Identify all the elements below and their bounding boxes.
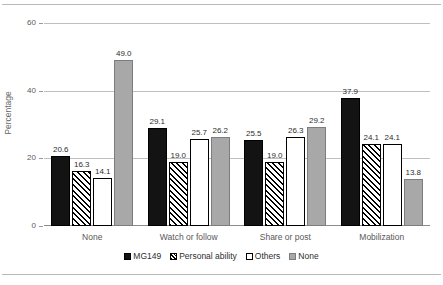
bar-value-label: 29.1 <box>149 118 165 126</box>
x-axis-category-label: None <box>44 232 141 242</box>
legend-item[interactable]: Others <box>246 251 281 261</box>
bar-item[interactable]: 24.1 <box>383 23 402 226</box>
bar-value-label: 49.0 <box>116 50 132 58</box>
bar-item[interactable]: 29.2 <box>307 23 326 226</box>
bar-group-bars: 20.616.314.149.0 <box>44 23 141 226</box>
bar-group: 37.924.124.113.8 <box>334 23 431 226</box>
legend-item-label: None <box>298 251 318 261</box>
y-axis-title: Percentage <box>3 91 13 134</box>
legend-item-label: Personal ability <box>179 251 237 261</box>
bar-group-bars: 25.519.026.329.2 <box>237 23 334 226</box>
legend-item[interactable]: None <box>289 251 318 261</box>
bar[interactable] <box>404 179 423 226</box>
bar-item[interactable]: 19.0 <box>169 23 188 226</box>
bar-item[interactable]: 26.3 <box>286 23 305 226</box>
bar[interactable] <box>286 137 305 226</box>
legend-swatch-icon <box>246 253 253 260</box>
bar-item[interactable]: 19.0 <box>265 23 284 226</box>
bar[interactable] <box>169 162 188 226</box>
bar-item[interactable]: 14.1 <box>93 23 112 226</box>
y-axis-tick-label: 0 <box>32 222 36 230</box>
plot-area: 6040200 20.616.314.149.029.119.025.726.2… <box>44 23 430 226</box>
bar[interactable] <box>307 127 326 226</box>
bar-value-label: 26.2 <box>212 127 228 135</box>
bar-value-label: 24.1 <box>384 134 400 142</box>
bar-item[interactable]: 37.9 <box>341 23 360 226</box>
y-axis-tick <box>39 158 43 159</box>
bar-value-label: 16.3 <box>74 161 90 169</box>
legend-swatch-icon <box>124 253 131 260</box>
y-axis-tick <box>39 91 43 92</box>
bar-group: 20.616.314.149.0 <box>44 23 141 226</box>
bar-value-label: 29.2 <box>309 117 325 125</box>
chart-legend: MG149Personal abilityOthersNone <box>0 251 443 261</box>
bar-value-label: 25.5 <box>246 130 262 138</box>
bar-group-bars: 37.924.124.113.8 <box>334 23 431 226</box>
bar[interactable] <box>341 98 360 226</box>
bar-group: 29.119.025.726.2 <box>141 23 238 226</box>
bar-value-label: 19.0 <box>170 152 186 160</box>
figure-bottom-rule <box>2 274 441 275</box>
bar-groups: 20.616.314.149.029.119.025.726.225.519.0… <box>44 23 430 226</box>
bar[interactable] <box>114 60 133 226</box>
bar-item[interactable]: 29.1 <box>148 23 167 226</box>
x-axis-category-label: Mobilization <box>334 232 431 242</box>
bar[interactable] <box>265 162 284 226</box>
bar-value-label: 25.7 <box>191 129 207 137</box>
bar-item[interactable]: 24.1 <box>362 23 381 226</box>
bar-group: 25.519.026.329.2 <box>237 23 334 226</box>
y-axis-tick-label: 20 <box>27 154 36 162</box>
bar-item[interactable]: 13.8 <box>404 23 423 226</box>
bar-value-label: 37.9 <box>342 88 358 96</box>
x-axis-category-label: Share or post <box>237 232 334 242</box>
bar-item[interactable]: 16.3 <box>72 23 91 226</box>
bar[interactable] <box>51 156 70 226</box>
bar-item[interactable]: 49.0 <box>114 23 133 226</box>
bar-value-label: 13.8 <box>405 169 421 177</box>
bar[interactable] <box>190 139 209 226</box>
bar-value-label: 24.1 <box>363 134 379 142</box>
bar-item[interactable]: 26.2 <box>211 23 230 226</box>
x-axis-category-label: Watch or follow <box>141 232 238 242</box>
bar-value-label: 14.1 <box>95 168 111 176</box>
legend-item-label: Others <box>255 251 281 261</box>
chart-figure: Percentage 6040200 20.616.314.149.029.11… <box>0 0 443 285</box>
bar-item[interactable]: 25.5 <box>244 23 263 226</box>
bar-value-label: 26.3 <box>288 127 304 135</box>
bar-item[interactable]: 25.7 <box>190 23 209 226</box>
bar[interactable] <box>383 144 402 226</box>
legend-item[interactable]: Personal ability <box>170 251 237 261</box>
bar[interactable] <box>244 140 263 226</box>
y-axis-tick-label: 40 <box>27 87 36 95</box>
bar[interactable] <box>72 171 91 226</box>
bar[interactable] <box>148 128 167 226</box>
y-axis-tick-label: 60 <box>27 19 36 27</box>
y-axis-tick <box>39 226 43 227</box>
legend-swatch-icon <box>170 253 177 260</box>
figure-top-rule <box>2 4 441 5</box>
legend-swatch-icon <box>289 253 296 260</box>
bar-value-label: 20.6 <box>53 146 69 154</box>
bar-item[interactable]: 20.6 <box>51 23 70 226</box>
y-axis-tick <box>39 23 43 24</box>
x-axis-labels: NoneWatch or followShare or postMobiliza… <box>44 232 430 242</box>
legend-item[interactable]: MG149 <box>124 251 161 261</box>
bar[interactable] <box>93 178 112 226</box>
legend-item-label: MG149 <box>133 251 161 261</box>
bar-group-bars: 29.119.025.726.2 <box>141 23 238 226</box>
bar-value-label: 19.0 <box>267 152 283 160</box>
bar[interactable] <box>362 144 381 226</box>
bar[interactable] <box>211 137 230 226</box>
